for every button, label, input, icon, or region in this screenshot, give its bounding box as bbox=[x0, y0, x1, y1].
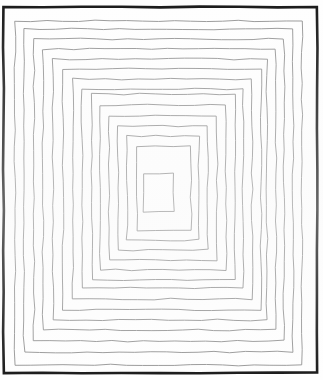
innermost-square-fill bbox=[144, 173, 174, 212]
drawing-canvas bbox=[0, 0, 323, 380]
concentric-rectangles-figure bbox=[0, 0, 323, 380]
